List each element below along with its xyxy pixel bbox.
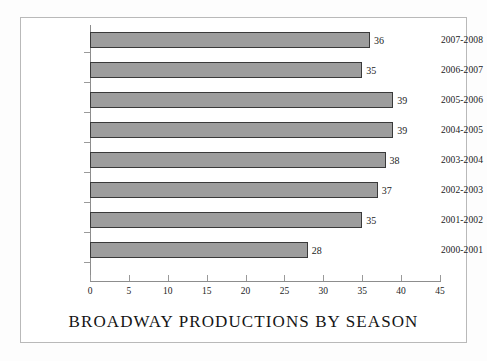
- value-label-2004-2005: 39: [397, 125, 407, 136]
- x-tick: [246, 275, 247, 281]
- x-tick-label-0: 0: [77, 286, 103, 296]
- y-tick: [84, 52, 90, 53]
- bar-2004-2005: [90, 122, 393, 138]
- y-tick: [84, 142, 90, 143]
- category-label-2005-2006: 2005-2006: [405, 95, 487, 105]
- y-tick: [84, 262, 90, 263]
- bar-2007-2008: [90, 32, 370, 48]
- x-tick: [440, 275, 441, 281]
- value-label-2002-2003: 37: [382, 185, 392, 196]
- x-tick: [323, 275, 324, 281]
- value-label-2007-2008: 36: [374, 35, 384, 46]
- y-tick: [84, 172, 90, 173]
- bar-2003-2004: [90, 152, 386, 168]
- chart-figure: 2007-20082006-20072005-20062004-20052003…: [0, 0, 487, 361]
- x-tick-label-15: 15: [194, 286, 220, 296]
- x-tick-label-30: 30: [310, 286, 336, 296]
- bar-2005-2006: [90, 92, 393, 108]
- x-tick: [401, 275, 402, 281]
- y-tick: [84, 82, 90, 83]
- chart-title: BROADWAY PRODUCTIONS BY SEASON: [20, 312, 467, 332]
- x-tick-label-20: 20: [233, 286, 259, 296]
- category-label-2002-2003: 2002-2003: [405, 185, 487, 195]
- category-label-2006-2007: 2006-2007: [405, 65, 487, 75]
- plot-area: 2007-20082006-20072005-20062004-20052003…: [0, 0, 487, 361]
- y-tick: [84, 112, 90, 113]
- x-tick: [168, 275, 169, 281]
- x-tick-label-5: 5: [116, 286, 142, 296]
- bar-2006-2007: [90, 62, 362, 78]
- category-label-2007-2008: 2007-2008: [405, 35, 487, 45]
- value-label-2003-2004: 38: [390, 155, 400, 166]
- bar-2000-2001: [90, 242, 308, 258]
- bar-2002-2003: [90, 182, 378, 198]
- x-axis-line: [90, 281, 441, 282]
- category-label-2001-2002: 2001-2002: [405, 215, 487, 225]
- x-tick: [284, 275, 285, 281]
- x-tick-label-35: 35: [349, 286, 375, 296]
- x-tick-label-40: 40: [388, 286, 414, 296]
- category-label-2000-2001: 2000-2001: [405, 245, 487, 255]
- bar-2001-2002: [90, 212, 362, 228]
- x-tick-label-25: 25: [271, 286, 297, 296]
- value-label-2006-2007: 35: [366, 65, 376, 76]
- x-tick: [362, 275, 363, 281]
- x-tick: [90, 275, 91, 281]
- y-tick: [84, 202, 90, 203]
- x-tick-label-10: 10: [155, 286, 181, 296]
- x-tick: [207, 275, 208, 281]
- x-tick-label-45: 45: [427, 286, 453, 296]
- category-label-2003-2004: 2003-2004: [405, 155, 487, 165]
- value-label-2005-2006: 39: [397, 95, 407, 106]
- category-label-2004-2005: 2004-2005: [405, 125, 487, 135]
- y-tick: [84, 232, 90, 233]
- value-label-2001-2002: 35: [366, 215, 376, 226]
- x-tick: [129, 275, 130, 281]
- value-label-2000-2001: 28: [312, 245, 322, 256]
